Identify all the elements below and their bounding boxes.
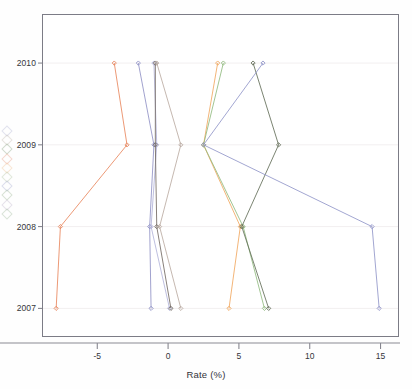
gridlines-group	[43, 63, 398, 308]
series-line-series-2	[138, 63, 154, 308]
series-line-series-8	[242, 63, 279, 308]
series-line-series-1	[56, 63, 127, 308]
data-series-group	[54, 61, 381, 311]
x-tick-label-5: 5	[224, 351, 254, 361]
axis-tickmarks-group	[0, 63, 400, 349]
y-tick-label-2007: 2007	[2, 303, 36, 313]
series-line-series-3	[151, 63, 169, 308]
chart-svg-layer	[0, 0, 412, 389]
x-tick-label-0: 0	[153, 351, 183, 361]
x-axis-title: Rate (%)	[0, 369, 412, 380]
x-tick-label-10: 10	[295, 351, 325, 361]
chart-canvas: 2007200820092010 -5051015 Rate (%)	[0, 0, 412, 389]
y-tick-label-2010: 2010	[2, 58, 36, 68]
legend-swatch-diamond-icon	[1, 208, 12, 219]
legend-strip-cropped	[1, 127, 17, 219]
y-tick-label-2008: 2008	[2, 222, 36, 232]
series-line-series-6	[204, 63, 241, 308]
series-line-series-4	[155, 63, 171, 308]
x-tick-label-15: 15	[366, 351, 396, 361]
series-line-series-5	[157, 63, 181, 308]
x-tick-label--5: -5	[82, 351, 112, 361]
series-line-series-9	[204, 63, 380, 308]
